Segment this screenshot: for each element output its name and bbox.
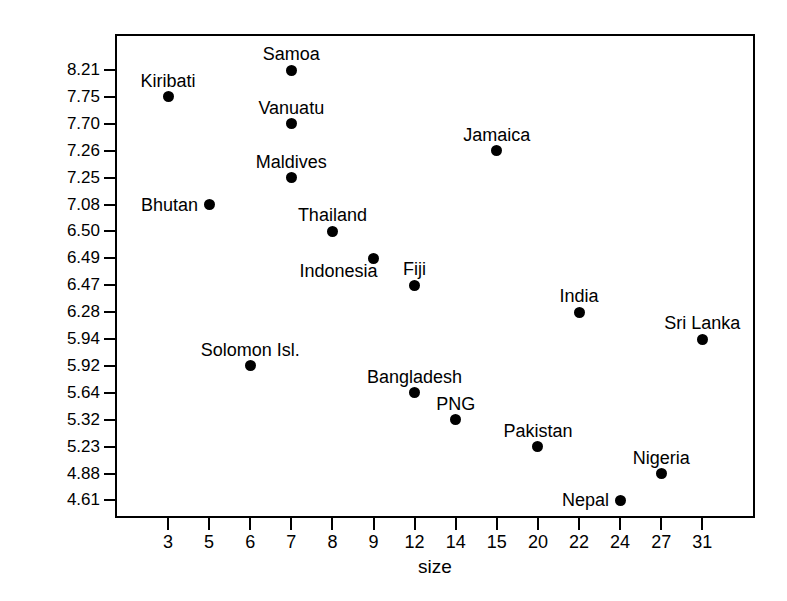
y-tick-mark — [104, 311, 116, 313]
x-tick-label: 7 — [271, 532, 311, 552]
x-tick-label: 6 — [230, 532, 270, 552]
plot-area — [115, 34, 755, 518]
data-point-label: Bhutan — [141, 195, 198, 215]
x-tick-mark — [496, 518, 498, 530]
data-point-label: Samoa — [263, 44, 320, 64]
data-point[interactable] — [615, 495, 626, 506]
x-tick-mark — [373, 518, 375, 530]
y-tick-label: 4.88 — [38, 465, 100, 482]
y-tick-label-text: 6.50 — [42, 222, 100, 239]
data-point-label: Maldives — [256, 152, 327, 172]
data-point[interactable] — [286, 172, 297, 183]
data-point-label: Fiji — [403, 259, 426, 279]
x-tick-mark — [414, 518, 416, 530]
y-tick-label: 6.47 — [38, 276, 100, 293]
y-tick-label-text: 5.92 — [42, 357, 100, 374]
data-point-label: India — [559, 286, 598, 306]
data-point-label: Nigeria — [633, 448, 690, 468]
y-tick-label: 5.32 — [38, 411, 100, 428]
y-tick-label-text: 5.32 — [42, 411, 100, 428]
y-tick-label: 5.92 — [38, 357, 100, 374]
x-tick-mark — [537, 518, 539, 530]
y-tick-label-text: 7.26 — [42, 142, 100, 159]
data-point[interactable] — [697, 334, 708, 345]
x-tick-label: 31 — [682, 532, 722, 552]
x-axis-title: size — [115, 556, 755, 578]
y-tick-label-text: 4.88 — [42, 465, 100, 482]
x-tick-mark — [331, 518, 333, 530]
x-tick-mark — [290, 518, 292, 530]
data-point-label: Pakistan — [503, 421, 572, 441]
x-tick-mark — [578, 518, 580, 530]
data-point[interactable] — [286, 65, 297, 76]
y-tick-mark — [104, 284, 116, 286]
y-tick-label-text: 7.08 — [42, 196, 100, 213]
data-point[interactable] — [327, 226, 338, 237]
y-tick-label-text: 6.49 — [42, 249, 100, 266]
y-tick-label-text: 6.47 — [42, 276, 100, 293]
x-tick-label: 8 — [312, 532, 352, 552]
data-point-label: Thailand — [298, 205, 367, 225]
data-point-label: Jamaica — [463, 125, 530, 145]
x-tick-label: 14 — [436, 532, 476, 552]
y-tick-label-text: 7.25 — [42, 169, 100, 186]
x-tick-mark — [249, 518, 251, 530]
y-tick-label: 6.50 — [38, 222, 100, 239]
y-tick-label-text: 4.61 — [42, 491, 100, 508]
y-tick-mark — [104, 446, 116, 448]
y-tick-label: 5.94 — [38, 330, 100, 347]
x-tick-label: 24 — [600, 532, 640, 552]
y-tick-mark — [104, 499, 116, 501]
x-tick-mark — [167, 518, 169, 530]
x-tick-label: 20 — [518, 532, 558, 552]
y-tick-label-text: 8.21 — [42, 61, 100, 78]
y-tick-mark — [104, 204, 116, 206]
y-tick-mark — [104, 419, 116, 421]
y-tick-label-text: 5.23 — [42, 438, 100, 455]
data-point-label: Vanuatu — [258, 98, 324, 118]
y-tick-label-text: 7.75 — [42, 88, 100, 105]
y-tick-label-text: 6.28 — [42, 303, 100, 320]
y-tick-label: 7.25 — [38, 169, 100, 186]
y-tick-mark — [104, 338, 116, 340]
y-tick-label: 5.23 — [38, 438, 100, 455]
data-point[interactable] — [204, 199, 215, 210]
data-point-label: Indonesia — [299, 261, 377, 281]
y-tick-label-text: 5.64 — [42, 384, 100, 401]
y-tick-label: 6.49 — [38, 249, 100, 266]
y-tick-mark — [104, 177, 116, 179]
y-tick-label: 8.21 — [38, 61, 100, 78]
data-point-label: Kiribati — [140, 71, 195, 91]
x-tick-mark — [208, 518, 210, 530]
data-point-label: Solomon Isl. — [201, 340, 300, 360]
x-tick-label: 15 — [477, 532, 517, 552]
y-tick-mark — [104, 69, 116, 71]
data-point-label: Bangladesh — [367, 367, 462, 387]
data-point[interactable] — [163, 91, 174, 102]
y-tick-mark — [104, 150, 116, 152]
y-tick-label: 7.75 — [38, 88, 100, 105]
y-tick-mark — [104, 473, 116, 475]
y-tick-label: 4.61 — [38, 491, 100, 508]
data-point[interactable] — [574, 307, 585, 318]
y-tick-label: 7.08 — [38, 196, 100, 213]
y-tick-label-text: 7.70 — [42, 115, 100, 132]
y-tick-label: 6.28 — [38, 303, 100, 320]
y-tick-label-text: 5.94 — [42, 330, 100, 347]
data-point-label: PNG — [436, 394, 475, 414]
x-tick-label: 27 — [641, 532, 681, 552]
data-point[interactable] — [409, 280, 420, 291]
data-point[interactable] — [656, 468, 667, 479]
y-tick-mark — [104, 365, 116, 367]
x-tick-label: 22 — [559, 532, 599, 552]
y-tick-mark — [104, 123, 116, 125]
y-tick-mark — [104, 96, 116, 98]
y-tick-label: 7.70 — [38, 115, 100, 132]
data-point-label: Nepal — [562, 490, 609, 510]
x-tick-label: 9 — [354, 532, 394, 552]
scatter-chart-figure: state weakness 8.217.757.707.267.257.086… — [0, 0, 787, 601]
x-tick-mark — [701, 518, 703, 530]
x-tick-mark — [455, 518, 457, 530]
y-tick-mark — [104, 257, 116, 259]
x-tick-mark — [660, 518, 662, 530]
